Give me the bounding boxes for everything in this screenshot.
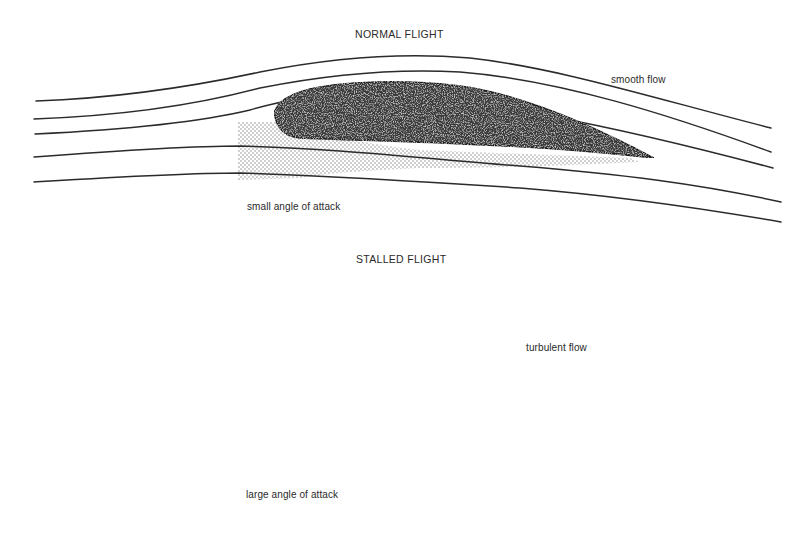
streamline [34, 173, 781, 222]
turbulent-flow-label: turbulent flow [526, 342, 587, 353]
airfoil-flow-diagram [0, 0, 809, 533]
large-angle-label: large angle of attack [246, 489, 338, 500]
small-angle-label: small angle of attack [247, 201, 340, 212]
normal-flight-title: NORMAL FLIGHT [355, 28, 444, 40]
normal-flight-panel [34, 56, 781, 222]
smooth-flow-label: smooth flow [611, 74, 665, 85]
stalled-flight-title: STALLED FLIGHT [356, 253, 446, 265]
